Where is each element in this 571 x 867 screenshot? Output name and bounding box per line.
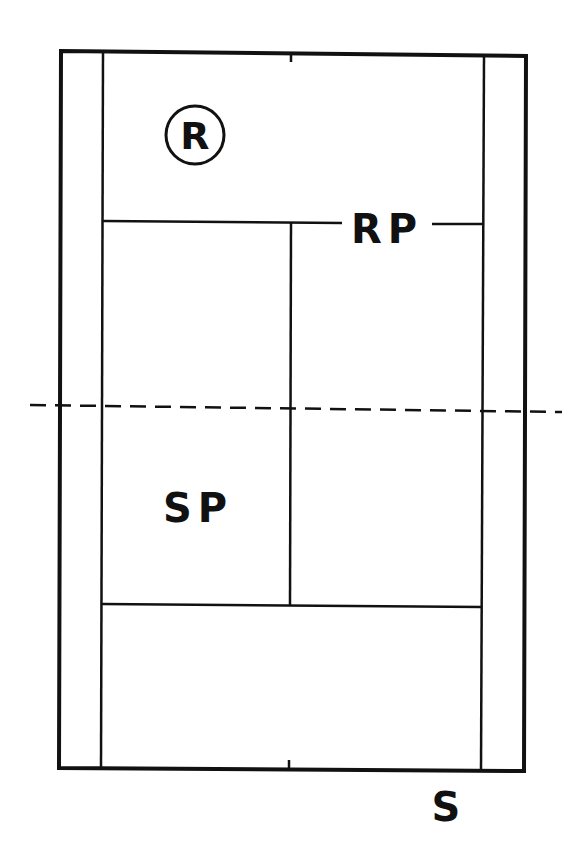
receiver-position-label: RP [351, 206, 423, 252]
top-service-line-left [103, 221, 342, 223]
bottom-service-line [102, 604, 482, 607]
server-position-label: SP [163, 485, 233, 531]
court-diagram: R RP SP S [0, 0, 571, 867]
receiver-marker: R [166, 106, 224, 164]
server-label: S [432, 784, 461, 830]
right-singles-sideline [481, 56, 484, 771]
center-service-line [290, 223, 291, 606]
left-singles-sideline [101, 52, 103, 769]
receiver-marker-label: R [180, 114, 209, 158]
